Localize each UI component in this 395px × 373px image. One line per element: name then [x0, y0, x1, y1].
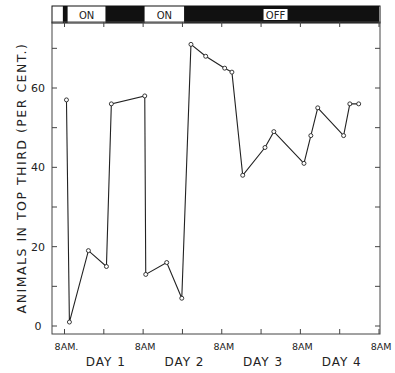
- x-tick-label: 8AM: [213, 341, 234, 352]
- y-tick-label: 60: [31, 82, 45, 95]
- data-point: [104, 265, 108, 269]
- data-point: [241, 173, 245, 177]
- chart: ONONOFF 0204060 8AM.8AM8AM8AM8AMDAY 1DAY…: [0, 0, 395, 373]
- data-point: [180, 296, 184, 300]
- y-axis-label: ANIMALS IN TOP THIRD (PER CENT.): [14, 43, 29, 314]
- x-tick-label: 8AM: [292, 341, 313, 352]
- data-point: [189, 42, 193, 46]
- data-series: [64, 42, 360, 324]
- day-label: DAY 1: [86, 355, 126, 369]
- data-point: [342, 134, 346, 138]
- plot-frame: [52, 22, 380, 334]
- y-tick-label: 20: [31, 241, 45, 254]
- x-tick-label: 8AM.: [55, 341, 79, 352]
- x-tick-label: 8AM: [135, 341, 156, 352]
- data-point: [144, 272, 148, 276]
- light-bar-label: OFF: [266, 10, 286, 21]
- x-axis-ticks: 8AM.8AM8AM8AM8AMDAY 1DAY 2DAY 3DAY 4: [55, 22, 392, 369]
- y-tick-label: 0: [35, 320, 42, 333]
- data-point: [204, 54, 208, 58]
- data-point: [309, 134, 313, 138]
- light-bar-segment-off: [63, 6, 68, 23]
- data-point: [143, 94, 147, 98]
- day-label: DAY 4: [322, 355, 362, 369]
- day-label: DAY 3: [243, 355, 283, 369]
- data-point: [64, 98, 68, 102]
- light-schedule-bar: ONONOFF: [52, 6, 380, 23]
- y-axis-ticks: 0204060: [31, 48, 380, 333]
- data-point: [357, 102, 361, 106]
- light-bar-label: ON: [157, 10, 172, 21]
- data-point: [223, 66, 227, 70]
- data-point: [86, 249, 90, 253]
- data-point: [109, 102, 113, 106]
- light-bar-segment-off: [105, 6, 144, 23]
- light-bar-label: ON: [79, 10, 94, 21]
- y-tick-label: 40: [31, 161, 45, 174]
- data-point: [302, 161, 306, 165]
- data-point: [263, 146, 267, 150]
- data-point: [348, 102, 352, 106]
- day-label: DAY 2: [164, 355, 204, 369]
- data-point: [230, 70, 234, 74]
- series-line: [66, 44, 358, 322]
- data-point: [67, 320, 71, 324]
- x-tick-label: 8AM: [371, 341, 392, 352]
- data-point: [272, 130, 276, 134]
- data-point: [316, 106, 320, 110]
- data-point: [165, 261, 169, 265]
